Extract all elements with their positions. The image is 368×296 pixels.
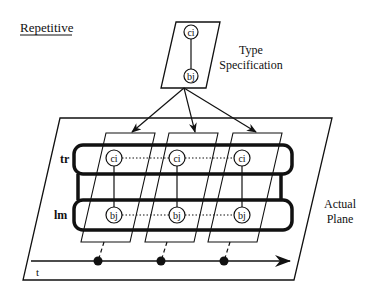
event-link-2 <box>162 242 167 258</box>
timeline: t <box>31 242 290 278</box>
arrow-3 <box>184 88 256 132</box>
arrow-2 <box>184 88 195 132</box>
arrow-1 <box>132 88 184 132</box>
title: Repetitive <box>20 20 74 35</box>
repetitive-diagram: Repetitive ci bj Type Specification Actu… <box>0 0 368 296</box>
plane-label-2: Plane <box>327 212 354 226</box>
type-spec-node-bottom-label: bj <box>187 71 195 82</box>
instance-3: ci bj <box>234 150 250 223</box>
instance-frames <box>81 133 282 242</box>
type-spec-label-2: Specification <box>219 58 282 72</box>
event-dot-2 <box>157 257 166 266</box>
instance-2: ci bj <box>169 150 185 223</box>
tr-label: tr <box>60 152 70 166</box>
event-dot-3 <box>220 257 229 266</box>
type-specification: ci bj Type Specification <box>161 22 283 88</box>
node-ci-1-label: ci <box>110 153 117 164</box>
time-axis-label: t <box>36 266 39 278</box>
lm-label: lm <box>54 208 67 222</box>
instance-frame-1 <box>81 133 155 242</box>
instance-1: ci bj <box>106 150 122 223</box>
instance-frame-3 <box>208 133 282 242</box>
title-text: Repetitive <box>20 20 74 35</box>
node-ci-2-label: ci <box>173 153 180 164</box>
node-bj-1-label: bj <box>110 210 118 221</box>
node-bj-2-label: bj <box>173 210 181 221</box>
instance-frame-2 <box>145 133 218 242</box>
event-dot-1 <box>94 257 103 266</box>
event-link-3 <box>225 242 230 258</box>
dotted-links <box>122 158 234 215</box>
node-bj-3-label: bj <box>238 210 246 221</box>
type-spec-label-1: Type <box>239 43 263 57</box>
event-link-1 <box>99 242 104 258</box>
instantiation-arrows <box>132 88 256 132</box>
plane-label-1: Actual <box>324 197 357 211</box>
type-spec-node-top-label: ci <box>187 27 194 38</box>
node-ci-3-label: ci <box>238 153 245 164</box>
